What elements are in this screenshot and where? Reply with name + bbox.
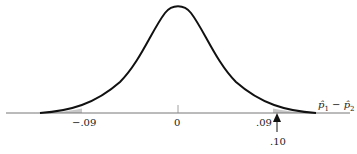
tick-label-pos-09: .09 <box>256 117 272 128</box>
tick-label-neg-09: −.09 <box>72 117 96 128</box>
normal-curve-figure <box>0 0 357 154</box>
tick-label-zero: 0 <box>174 117 180 128</box>
arrow-head-icon <box>273 113 281 122</box>
sub-2: 2 <box>350 105 354 113</box>
arrow-label-10: .10 <box>270 136 286 147</box>
minus-sign: − <box>329 99 344 110</box>
axis-variable-label: p̂1 − p̂2 <box>318 99 355 113</box>
bell-curve <box>40 6 316 113</box>
